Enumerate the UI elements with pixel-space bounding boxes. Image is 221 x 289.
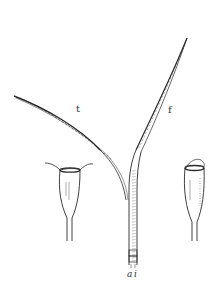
label-a: a bbox=[127, 269, 132, 279]
branch-t bbox=[14, 96, 128, 200]
label-f: f bbox=[168, 104, 173, 115]
label-t: t bbox=[76, 103, 80, 114]
label-i: i bbox=[134, 269, 137, 279]
illustration-page: t f a i bbox=[0, 0, 221, 289]
branch-f bbox=[136, 38, 187, 152]
left-vessel bbox=[45, 163, 93, 241]
main-stalk bbox=[129, 150, 141, 268]
illustration-canvas: t f a i bbox=[0, 0, 221, 289]
right-vessel bbox=[184, 159, 204, 241]
